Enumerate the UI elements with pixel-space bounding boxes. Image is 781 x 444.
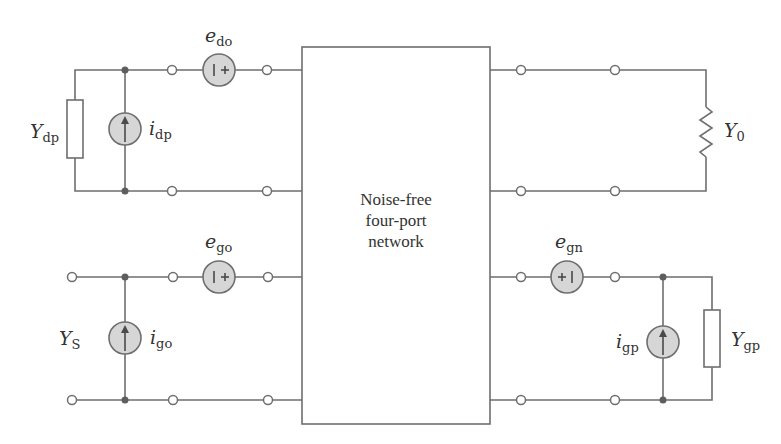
wire [490, 70, 706, 107]
label-ego: ego [205, 230, 233, 255]
wire [490, 157, 706, 191]
junction-dot [122, 188, 129, 195]
label-y0: Y0 [724, 119, 745, 144]
terminal [611, 396, 620, 405]
wire [75, 70, 203, 100]
junction-dot [122, 67, 129, 74]
terminal [611, 273, 620, 282]
terminal [264, 396, 273, 405]
terminal [263, 66, 272, 75]
terminal [517, 396, 526, 405]
terminal [517, 187, 526, 196]
admittance-ydp-resistor [67, 100, 83, 158]
label-idp: idp [149, 117, 172, 142]
junction-dot [660, 397, 667, 404]
terminal [68, 273, 77, 282]
terminal [611, 187, 620, 196]
terminal [168, 66, 177, 75]
network-label-line-3: network [368, 232, 424, 251]
label-ys: YS [59, 327, 80, 352]
junction-dot [122, 397, 129, 404]
terminal [68, 396, 77, 405]
terminal [517, 273, 526, 282]
label-egn: egn [555, 230, 584, 255]
label-igp: igp [616, 330, 639, 355]
voltage-source-edo [203, 54, 235, 86]
terminal [169, 396, 178, 405]
bottom-left-port: YS igo ego [59, 230, 302, 405]
terminal [517, 66, 526, 75]
wire [490, 367, 712, 400]
admittance-ygp-resistor [704, 310, 720, 367]
voltage-source-ego [203, 261, 235, 293]
wire [583, 277, 712, 310]
network-label-line-2: four-port [365, 211, 426, 230]
label-edo: edo [205, 24, 233, 49]
top-left-port: Ydp idp edo [30, 24, 302, 196]
label-ydp: Ydp [30, 120, 59, 145]
network-label-line-1: Noise-free [360, 190, 432, 209]
load-resistor-y0 [700, 107, 712, 157]
top-right-port: Y0 [490, 66, 745, 196]
bottom-right-port: egn igp Ygp [490, 230, 760, 405]
label-igo: igo [150, 326, 172, 351]
junction-dot [660, 274, 667, 281]
circuit-diagram: Noise-free four-port network Ydp idp edo [0, 0, 781, 444]
junction-dot [122, 274, 129, 281]
terminal [611, 66, 620, 75]
terminal [264, 273, 273, 282]
terminal [169, 273, 178, 282]
terminal [168, 187, 177, 196]
voltage-source-egn [551, 261, 583, 293]
label-ygp: Ygp [731, 328, 760, 353]
terminal [263, 187, 272, 196]
